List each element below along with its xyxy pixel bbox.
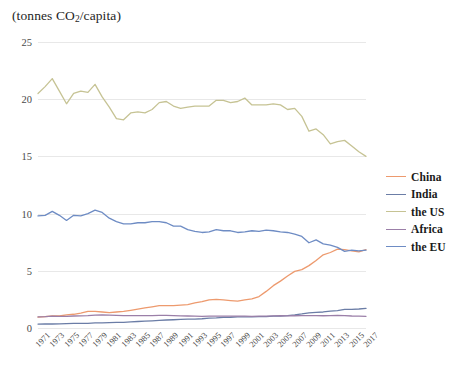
legend: ChinaIndiathe USAfricathe EU	[386, 168, 462, 256]
y-axis-tick-label: 5	[27, 265, 32, 276]
series-line-the-us	[38, 79, 366, 157]
x-axis-tick-label: 2017	[361, 330, 380, 349]
series-line-the-eu	[38, 210, 366, 251]
legend-label: India	[411, 188, 438, 200]
legend-swatch-icon	[386, 176, 406, 177]
co2-per-capita-line-chart: (tonnes CO2/capita) 0510152025 197119731…	[0, 0, 464, 370]
legend-item-the-eu[interactable]: the EU	[386, 238, 462, 256]
legend-label: the EU	[411, 241, 446, 253]
legend-swatch-icon	[386, 211, 406, 212]
y-axis-tick-label: 10	[22, 208, 33, 219]
x-axis-ticks: 1971197319751977197919811983198519871989…	[38, 330, 366, 370]
y-axis-tick-label: 0	[27, 323, 32, 334]
y-axis-unit-suffix: /capita)	[80, 8, 121, 23]
plot-area: 0510152025	[38, 42, 366, 328]
legend-item-the-us[interactable]: the US	[386, 203, 462, 221]
y-axis-unit-label: (tonnes CO2/capita)	[12, 8, 121, 24]
legend-label: the US	[411, 206, 445, 218]
series-line-china	[38, 249, 366, 317]
legend-item-africa[interactable]: Africa	[386, 221, 462, 239]
legend-item-india[interactable]: India	[386, 186, 462, 204]
y-axis-tick-label: 20	[22, 94, 33, 105]
y-axis-unit-prefix: (tonnes CO	[12, 8, 75, 23]
series-line-africa	[38, 315, 366, 317]
legend-label: Africa	[411, 223, 443, 235]
legend-swatch-icon	[386, 229, 406, 230]
legend-item-china[interactable]: China	[386, 168, 462, 186]
series-lines	[38, 42, 366, 328]
legend-swatch-icon	[386, 246, 406, 247]
legend-label: China	[411, 171, 442, 183]
legend-swatch-icon	[386, 194, 406, 195]
y-axis-tick-label: 25	[22, 37, 33, 48]
y-axis-tick-label: 15	[22, 151, 33, 162]
